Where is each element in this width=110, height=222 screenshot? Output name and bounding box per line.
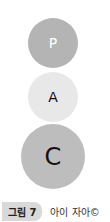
figure-label: 그림 7 (2, 202, 42, 221)
parent-ego-circle: P (28, 18, 78, 68)
circle-letter-a: A (48, 89, 58, 105)
figure-caption: 그림 7 아이 자아© (2, 202, 100, 221)
figure-caption-text: 아이 자아© (50, 204, 99, 219)
child-ego-circle: C (21, 124, 85, 189)
adult-ego-circle: A (28, 72, 78, 122)
circle-letter-c: C (45, 143, 62, 171)
circle-letter-p: P (49, 35, 57, 51)
